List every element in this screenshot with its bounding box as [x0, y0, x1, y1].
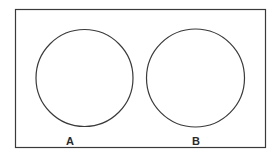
set-a-label: A [66, 135, 74, 147]
set-b-label: B [192, 135, 200, 147]
venn-diagram: A B [0, 0, 277, 156]
set-b-circle [147, 29, 245, 127]
set-a-circle [36, 30, 133, 127]
universe-frame [16, 10, 266, 148]
